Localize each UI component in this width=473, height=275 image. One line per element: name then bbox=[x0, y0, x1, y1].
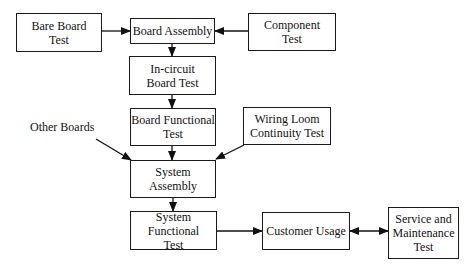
node-label: Service and Maintenance Test bbox=[393, 212, 455, 254]
node-system-assembly: System Assembly bbox=[130, 160, 216, 198]
node-in-circuit-board-test: In-circuit Board Test bbox=[129, 56, 216, 95]
node-label: Customer Usage bbox=[266, 224, 346, 238]
node-service-and-maintenance-test: Service and Maintenance Test bbox=[388, 207, 459, 259]
edge-other-boards-to-system-assembly bbox=[96, 139, 131, 160]
node-board-assembly: Board Assembly bbox=[130, 18, 215, 44]
node-label: Board Functional Test bbox=[131, 113, 215, 141]
node-label: In-circuit Board Test bbox=[147, 62, 199, 90]
node-label: Bare Board Test bbox=[32, 19, 87, 47]
node-wiring-loom-continuity-test: Wiring Loom Continuity Test bbox=[243, 107, 331, 145]
node-label: System Functional Test bbox=[131, 210, 216, 252]
node-board-functional-test: Board Functional Test bbox=[130, 108, 216, 146]
node-customer-usage: Customer Usage bbox=[262, 212, 350, 250]
node-label: Wiring Loom Continuity Test bbox=[250, 112, 324, 140]
node-component-test: Component Test bbox=[248, 13, 336, 51]
node-label: Component Test bbox=[264, 18, 320, 46]
edge-wiring-to-system-assembly bbox=[216, 145, 244, 159]
node-label: System Assembly bbox=[149, 165, 197, 193]
node-bare-board-test: Bare Board Test bbox=[16, 13, 102, 52]
node-system-functional-test: System Functional Test bbox=[130, 211, 217, 250]
node-label: Board Assembly bbox=[133, 24, 213, 38]
other-boards-label: Other Boards bbox=[30, 120, 94, 134]
